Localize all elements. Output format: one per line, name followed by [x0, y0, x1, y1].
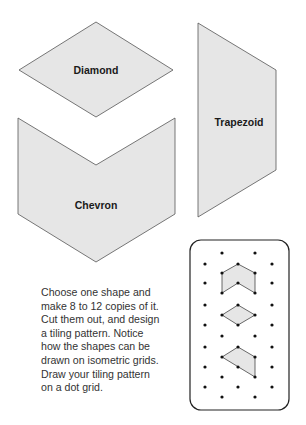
grid-dot: [203, 281, 206, 284]
instruction-line: Draw your tiling pattern: [41, 368, 191, 382]
grid-dot: [270, 262, 273, 265]
trapezoid-label: Trapezoid: [214, 116, 263, 128]
grid-dot: [270, 323, 273, 326]
grid-dot: [203, 365, 206, 368]
grid-dot: [220, 313, 223, 316]
grid-dot: [236, 345, 239, 348]
instructions-text: Choose one shape and make 8 to 12 copies…: [41, 286, 191, 395]
grid-dot: [236, 365, 239, 368]
grid-dot: [253, 395, 256, 398]
grid-dot: [220, 291, 223, 294]
chevron-shape: Chevron: [18, 118, 175, 262]
grid-dot: [220, 395, 223, 398]
instruction-line: on a dot grid.: [41, 381, 191, 395]
trapezoid-shape: Trapezoid: [198, 23, 276, 217]
grid-dot: [203, 323, 206, 326]
instruction-line: drawn on isometric grids.: [41, 354, 191, 368]
chevron-label: Chevron: [75, 199, 118, 211]
grid-dot: [220, 334, 223, 337]
mini-trapezoid: [222, 347, 255, 377]
instruction-line: Choose one shape and: [41, 286, 191, 300]
grid-dot: [236, 281, 239, 284]
grid-dot: [270, 385, 273, 388]
grid-dot: [220, 271, 223, 274]
mini-diamond: [222, 305, 255, 325]
grid-dot: [236, 303, 239, 306]
grid-dot: [270, 345, 273, 348]
grid-dot: [270, 281, 273, 284]
grid-dot: [220, 375, 223, 378]
instruction-line: how the shapes can be: [41, 340, 191, 354]
grid-dot: [253, 355, 256, 358]
grid-dot: [253, 291, 256, 294]
grid-dot: [236, 385, 239, 388]
grid-dot: [253, 375, 256, 378]
dot-grid-example-shapes: [222, 264, 255, 377]
grid-dot: [220, 251, 223, 254]
grid-dot: [253, 271, 256, 274]
grid-dot: [270, 303, 273, 306]
grid-dot: [203, 262, 206, 265]
grid-dot: [220, 355, 223, 358]
grid-dot: [203, 345, 206, 348]
grid-dot: [236, 323, 239, 326]
grid-dot: [253, 251, 256, 254]
chevron-polygon: [18, 118, 175, 262]
instruction-line: a tiling pattern. Notice: [41, 327, 191, 341]
instruction-line: Cut them out, and design: [41, 313, 191, 327]
instruction-line: make 8 to 12 copies of it.: [41, 300, 191, 314]
grid-dot: [253, 334, 256, 337]
grid-dot: [270, 365, 273, 368]
grid-dot: [236, 262, 239, 265]
grid-dot: [203, 385, 206, 388]
grid-dot: [253, 313, 256, 316]
grid-dot: [203, 303, 206, 306]
mini-chevron: [222, 264, 255, 293]
diamond-shape: Diamond: [19, 22, 173, 117]
dot-grid-panel: [190, 240, 289, 410]
diamond-label: Diamond: [74, 64, 119, 76]
